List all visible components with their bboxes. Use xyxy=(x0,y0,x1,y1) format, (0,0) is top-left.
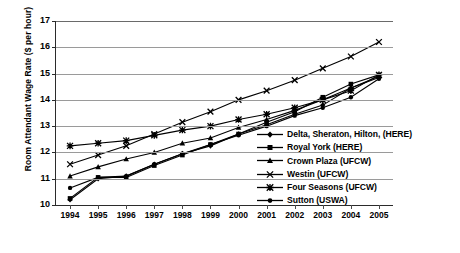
x-tick-label: 2005 xyxy=(359,211,399,220)
data-point-x xyxy=(67,161,73,167)
x-tick-mark xyxy=(70,205,71,209)
x-tick-mark xyxy=(154,205,155,209)
data-point-x xyxy=(320,65,326,71)
x-tick-mark xyxy=(239,205,240,209)
chart-container: Room Attendant Wage Rate ($ per hour) 10… xyxy=(0,0,460,253)
gridline xyxy=(56,74,393,75)
data-point-x xyxy=(208,109,214,115)
data-point-square xyxy=(68,196,73,201)
data-point-star xyxy=(95,140,102,147)
data-point-circle xyxy=(152,162,156,166)
data-point-star xyxy=(348,87,355,94)
data-point-circle xyxy=(293,113,297,117)
y-tick-mark xyxy=(52,179,56,180)
plot-top-border xyxy=(56,21,393,22)
legend-item[interactable]: Westin (UFCW) xyxy=(255,168,412,181)
y-tick-label: 14 xyxy=(32,95,50,104)
data-point-star xyxy=(291,104,298,111)
legend-symbol-circle xyxy=(255,194,285,207)
x-tick-mark xyxy=(98,205,99,209)
data-point-circle xyxy=(349,95,353,99)
data-point-x xyxy=(376,39,382,45)
legend-item[interactable]: Royal York (HERE) xyxy=(255,141,412,154)
legend-label: Sutton (USWA) xyxy=(285,196,347,205)
data-point-circle xyxy=(377,77,381,81)
data-point-star xyxy=(151,132,158,139)
y-tick-label: 17 xyxy=(32,16,50,25)
data-point-star xyxy=(235,116,242,123)
legend-symbol-star xyxy=(255,181,285,194)
y-tick-label: 10 xyxy=(32,200,50,209)
x-tick-mark xyxy=(126,205,127,209)
y-tick-label: 11 xyxy=(32,174,50,183)
y-tick-mark xyxy=(52,126,56,127)
data-point-diamond xyxy=(267,131,273,137)
legend-label: Westin (UFCW) xyxy=(285,170,348,179)
gridline xyxy=(56,47,393,48)
data-point-circle xyxy=(321,106,325,110)
y-tick-mark xyxy=(52,100,56,101)
x-tick-mark xyxy=(182,205,183,209)
data-point-star xyxy=(67,143,74,150)
y-tick-mark xyxy=(52,205,56,206)
legend-item[interactable]: Sutton (USWA) xyxy=(255,194,412,207)
data-point-circle xyxy=(236,133,240,137)
legend-label: Crown Plaza (UFCW) xyxy=(285,157,371,166)
chart-legend: Delta, Sheraton, Hilton, (HERE)Royal Yor… xyxy=(255,128,412,207)
y-tick-label: 13 xyxy=(32,121,50,130)
legend-label: Royal York (HERE) xyxy=(285,143,362,152)
legend-item[interactable]: Delta, Sheraton, Hilton, (HERE) xyxy=(255,128,412,141)
gridline xyxy=(56,100,393,101)
data-point-star xyxy=(179,127,186,134)
data-point-x xyxy=(348,54,354,60)
data-point-x xyxy=(264,88,270,94)
data-point-star xyxy=(266,184,273,191)
data-point-star xyxy=(123,137,130,144)
legend-symbol-triangle xyxy=(255,154,285,167)
gridline xyxy=(56,126,393,127)
y-tick-label: 15 xyxy=(32,69,50,78)
legend-item[interactable]: Four Seasons (UFCW) xyxy=(255,181,412,194)
legend-symbol-diamond xyxy=(255,128,285,141)
legend-symbol-square xyxy=(255,141,285,154)
x-tick-mark xyxy=(210,205,211,209)
legend-symbol-x xyxy=(255,168,285,181)
data-point-star xyxy=(263,111,270,118)
y-tick-label: 16 xyxy=(32,42,50,51)
data-point-circle xyxy=(268,198,273,203)
legend-label: Four Seasons (UFCW) xyxy=(285,183,377,192)
data-point-x xyxy=(180,119,186,125)
y-tick-label: 12 xyxy=(32,147,50,156)
legend-label: Delta, Sheraton, Hilton, (HERE) xyxy=(285,130,412,139)
data-point-square xyxy=(268,145,273,150)
legend-item[interactable]: Crown Plaza (UFCW) xyxy=(255,154,412,167)
y-tick-mark xyxy=(52,74,56,75)
y-tick-mark xyxy=(52,47,56,48)
y-tick-mark xyxy=(52,152,56,153)
data-point-x xyxy=(292,77,298,83)
data-point-circle xyxy=(68,186,72,190)
data-point-circle xyxy=(208,142,212,146)
data-point-circle xyxy=(124,174,128,178)
